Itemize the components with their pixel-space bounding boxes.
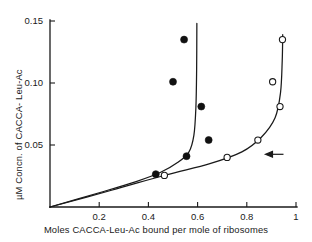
y-tick-label: 0.15 xyxy=(25,15,44,26)
data-point-open xyxy=(161,172,167,178)
x-tick-label: 0.6 xyxy=(191,211,204,222)
data-point-filled xyxy=(205,137,212,144)
data-points xyxy=(152,36,285,178)
y-tick-label: 0.10 xyxy=(25,77,44,88)
x-axis-label: Moles CACCA-Leu-Ac bound per mole of rib… xyxy=(0,224,312,235)
data-curves xyxy=(50,23,283,207)
x-tick-label: 1 xyxy=(293,211,298,222)
data-point-filled xyxy=(152,171,159,178)
plot-canvas: 0.20.40.60.810.050.100.15 xyxy=(0,0,312,242)
curve-filled-circles xyxy=(50,23,197,207)
x-tick-label: 0.8 xyxy=(240,211,253,222)
y-axis-label: µM Concn. of CACCA- Leu-Ac xyxy=(13,69,24,200)
axis-ticks xyxy=(50,21,296,207)
y-tick-label: 0.05 xyxy=(25,139,44,150)
curve-open-circles xyxy=(50,35,283,207)
data-point-filled xyxy=(170,78,177,85)
data-point-open xyxy=(279,37,285,43)
data-point-filled xyxy=(198,103,205,110)
axis-tick-labels: 0.20.40.60.810.050.100.15 xyxy=(25,15,299,222)
data-point-open xyxy=(224,154,230,160)
x-tick-label: 0.2 xyxy=(93,211,106,222)
data-point-open xyxy=(277,103,283,109)
data-point-filled xyxy=(181,36,188,43)
data-point-open xyxy=(255,137,261,143)
axes xyxy=(50,20,297,207)
data-point-filled xyxy=(183,153,190,160)
annotations xyxy=(265,151,283,157)
scatter-plot-figure: 0.20.40.60.810.050.100.15 µM Concn. of C… xyxy=(0,0,312,242)
x-tick-label: 0.4 xyxy=(142,211,155,222)
endpoint-arrow xyxy=(265,151,283,157)
arrow-head xyxy=(265,151,272,157)
data-point-open xyxy=(270,79,276,85)
